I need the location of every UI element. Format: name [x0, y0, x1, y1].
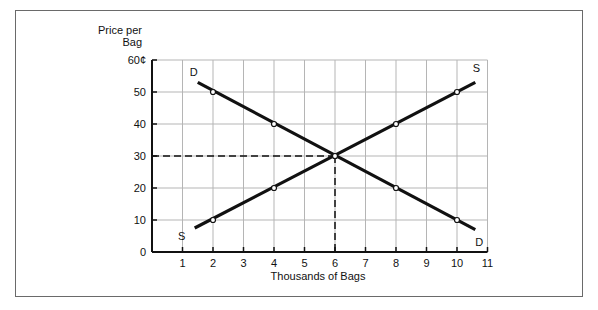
y-tick-label: 10: [134, 214, 146, 226]
x-axis-title: Thousands of Bags: [271, 270, 366, 282]
supply-label-end: S: [473, 62, 480, 74]
y-tick-label: 0: [140, 246, 146, 258]
demand-point: [394, 186, 399, 191]
x-tick-label: 4: [271, 257, 277, 269]
x-tick-label: 6: [332, 257, 338, 269]
supply-point: [211, 218, 216, 223]
y-tick-label: 30: [134, 150, 146, 162]
supply-demand-chart: Price per Bag Thousands of Bags 12345678…: [0, 0, 598, 310]
supply-point: [394, 122, 399, 127]
x-tick-label: 5: [301, 257, 307, 269]
x-tick-label: 8: [393, 257, 399, 269]
demand-point: [455, 218, 460, 223]
x-tick-label: 7: [362, 257, 368, 269]
y-tick-label: 20: [134, 182, 146, 194]
demand-point: [272, 122, 277, 127]
supply-point: [455, 90, 460, 95]
y-tick-label: 40: [134, 118, 146, 130]
y-tick-label: 60¢: [128, 54, 146, 66]
x-tick-label: 10: [451, 257, 463, 269]
demand-point: [211, 90, 216, 95]
supply-label-start: S: [178, 230, 185, 242]
x-tick-label: 2: [210, 257, 216, 269]
y-axis-title-line-1: Price per: [98, 24, 142, 36]
x-tick-label: 3: [240, 257, 246, 269]
supply-point: [333, 154, 338, 159]
supply-point: [272, 186, 277, 191]
demand-label-start: D: [190, 66, 198, 78]
demand-label-end: D: [475, 236, 483, 248]
x-tick-label: 11: [482, 257, 493, 269]
y-tick-label: 50: [134, 86, 146, 98]
y-axis-title-line-2: Bag: [122, 36, 142, 48]
x-tick-label: 9: [423, 257, 429, 269]
x-tick-label: 1: [179, 257, 185, 269]
